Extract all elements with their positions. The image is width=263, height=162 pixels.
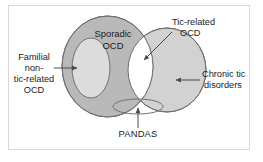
tic-related-label-line1: Tic-related	[172, 17, 215, 27]
familial-label-line1: Familial	[18, 52, 50, 62]
pandas-label: PANDAS	[118, 128, 157, 139]
sporadic-label-line2: OCD	[103, 40, 124, 51]
chronic-label-line1: Chronic tic	[202, 69, 246, 79]
tic-related-label-line2: OCD	[180, 28, 201, 38]
familial-label-line3: tic-related	[14, 74, 54, 84]
figure-root: Familial non- tic-related OCD Sporadic O…	[0, 0, 263, 162]
chronic-label-line2: disorders	[204, 80, 242, 90]
sporadic-label-line1: Sporadic	[94, 28, 131, 39]
familial-label-line4: OCD	[24, 85, 45, 95]
familial-label-line2: non-	[25, 63, 43, 73]
venn-diagram: Familial non- tic-related OCD Sporadic O…	[0, 0, 263, 162]
